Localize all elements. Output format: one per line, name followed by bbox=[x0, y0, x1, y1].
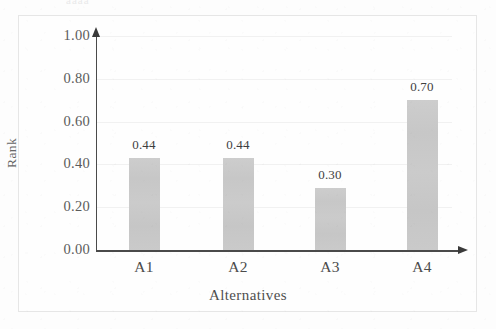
y-axis-line bbox=[96, 36, 97, 250]
y-axis-tick-label: 1.00 bbox=[42, 27, 90, 44]
bar bbox=[223, 158, 254, 250]
y-axis-tick-label: 0.80 bbox=[42, 70, 90, 87]
x-axis-tick-label: A1 bbox=[114, 258, 174, 276]
y-axis-tick-label: 0.20 bbox=[42, 198, 90, 215]
y-axis-tick-label: 0.00 bbox=[42, 241, 90, 258]
x-axis-arrow-icon bbox=[458, 246, 468, 254]
bar-chart-figure: aaaa 1.000.800.600.400.200.00 Rank 0.44A… bbox=[0, 0, 496, 329]
y-axis-title: Rank bbox=[3, 150, 63, 168]
x-axis-title: Alternatives bbox=[0, 287, 496, 304]
y-axis-arrow-icon bbox=[92, 27, 100, 37]
bar bbox=[407, 100, 438, 250]
bar-value-label: 0.30 bbox=[300, 167, 360, 183]
bar-value-label: 0.70 bbox=[392, 79, 452, 95]
bar bbox=[129, 158, 160, 250]
y-axis-tick-label: 0.60 bbox=[42, 113, 90, 130]
x-axis-line bbox=[96, 250, 459, 252]
bar-value-label: 0.44 bbox=[208, 137, 268, 153]
gridline bbox=[96, 36, 452, 37]
x-axis-tick-label: A4 bbox=[392, 258, 452, 276]
x-axis-tick-label: A3 bbox=[300, 258, 360, 276]
bar-value-label: 0.44 bbox=[114, 137, 174, 153]
x-axis-tick-label: A2 bbox=[208, 258, 268, 276]
bar bbox=[315, 188, 346, 250]
gridline bbox=[96, 122, 452, 123]
